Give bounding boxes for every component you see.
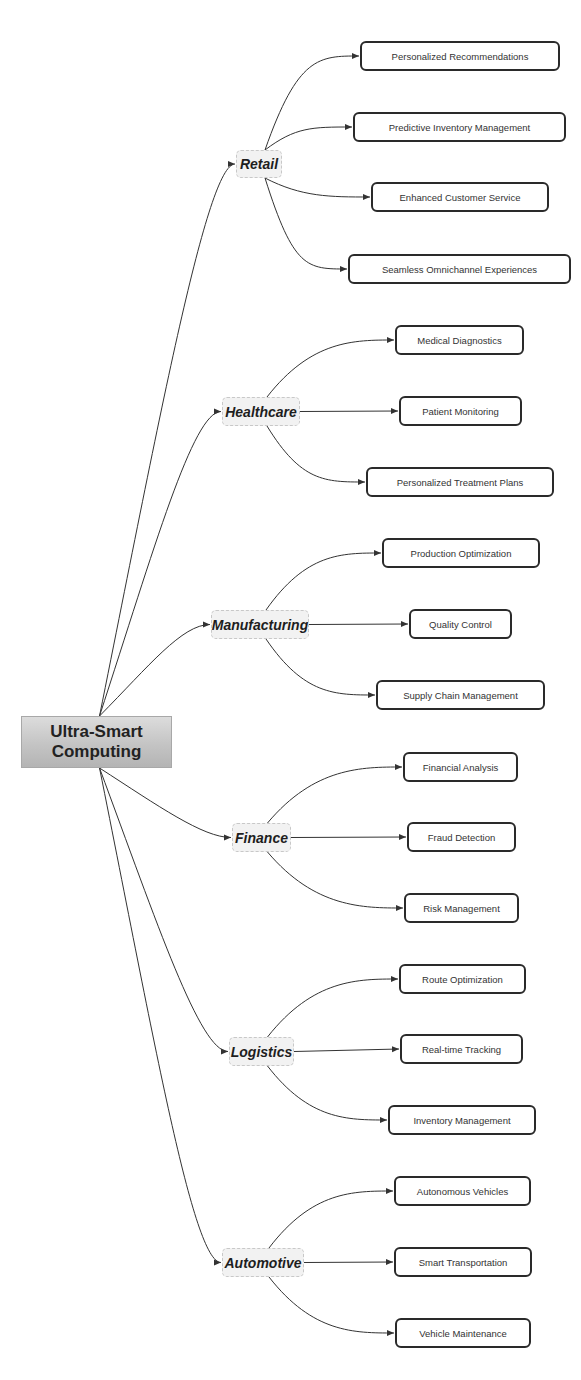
edge-root-to-automotive	[100, 768, 221, 1263]
edge-manufacturing-to-supply-chain-management	[266, 639, 375, 695]
leaf-node-predictive-inventory-management[interactable]: Predictive Inventory Management	[353, 112, 566, 142]
leaf-label: Personalized Recommendations	[392, 51, 529, 62]
leaf-label: Autonomous Vehicles	[417, 1186, 508, 1197]
edge-root-to-finance	[100, 768, 231, 838]
category-label: Manufacturing	[212, 617, 308, 633]
leaf-node-personalized-treatment-plans[interactable]: Personalized Treatment Plans	[366, 467, 554, 497]
edge-finance-to-risk-management	[268, 852, 404, 908]
leaf-label: Personalized Treatment Plans	[397, 477, 524, 488]
leaf-node-supply-chain-management[interactable]: Supply Chain Management	[376, 680, 545, 710]
leaf-label: Vehicle Maintenance	[419, 1328, 507, 1339]
category-node-manufacturing[interactable]: Manufacturing	[211, 610, 309, 639]
leaf-node-autonomous-vehicles[interactable]: Autonomous Vehicles	[394, 1176, 531, 1206]
category-node-retail[interactable]: Retail	[236, 150, 282, 178]
leaf-node-personalized-recommendations[interactable]: Personalized Recommendations	[360, 41, 560, 71]
leaf-node-risk-management[interactable]: Risk Management	[404, 893, 519, 923]
leaf-node-vehicle-maintenance[interactable]: Vehicle Maintenance	[395, 1318, 531, 1348]
category-label: Healthcare	[225, 404, 297, 420]
leaf-label: Seamless Omnichannel Experiences	[382, 264, 537, 275]
leaf-label: Quality Control	[429, 619, 492, 630]
edge-healthcare-to-personalized-treatment-plans	[267, 426, 365, 482]
leaf-node-route-optimization[interactable]: Route Optimization	[399, 964, 526, 994]
leaf-node-financial-analysis[interactable]: Financial Analysis	[403, 752, 518, 782]
leaf-label: Patient Monitoring	[422, 406, 499, 417]
edge-retail-to-enhanced-customer-service	[265, 178, 370, 197]
leaf-node-patient-monitoring[interactable]: Patient Monitoring	[399, 396, 522, 426]
leaf-label: Smart Transportation	[419, 1257, 508, 1268]
edge-manufacturing-to-quality-control	[309, 624, 408, 625]
root-node-ultra-smart-computing[interactable]: Ultra-Smart Computing	[21, 716, 172, 768]
edge-finance-to-fraud-detection	[291, 837, 406, 838]
leaf-node-smart-transportation[interactable]: Smart Transportation	[394, 1247, 532, 1277]
leaf-node-seamless-omnichannel-experiences[interactable]: Seamless Omnichannel Experiences	[348, 254, 571, 284]
edge-manufacturing-to-production-optimization	[266, 553, 381, 610]
category-node-automotive[interactable]: Automotive	[222, 1248, 304, 1277]
category-label: Logistics	[231, 1044, 292, 1060]
leaf-label: Predictive Inventory Management	[389, 122, 531, 133]
leaf-node-quality-control[interactable]: Quality Control	[409, 609, 512, 639]
category-node-healthcare[interactable]: Healthcare	[222, 397, 300, 426]
leaf-label: Supply Chain Management	[403, 690, 518, 701]
leaf-label: Production Optimization	[411, 548, 512, 559]
edge-logistics-to-real-time-tracking	[294, 1049, 399, 1052]
leaf-label: Financial Analysis	[423, 762, 499, 773]
leaf-node-real-time-tracking[interactable]: Real-time Tracking	[400, 1034, 523, 1064]
leaf-label: Risk Management	[423, 903, 500, 914]
leaf-label: Real-time Tracking	[422, 1044, 501, 1055]
leaf-node-enhanced-customer-service[interactable]: Enhanced Customer Service	[371, 182, 549, 212]
category-label: Finance	[235, 830, 288, 846]
category-node-finance[interactable]: Finance	[232, 823, 291, 852]
leaf-label: Medical Diagnostics	[417, 335, 501, 346]
edge-logistics-to-inventory-management	[268, 1066, 388, 1120]
root-label: Ultra-Smart Computing	[22, 722, 171, 762]
edge-automotive-to-smart-transportation	[304, 1262, 393, 1263]
category-label: Automotive	[225, 1255, 302, 1271]
leaf-node-production-optimization[interactable]: Production Optimization	[382, 538, 540, 568]
category-node-logistics[interactable]: Logistics	[229, 1037, 294, 1066]
edge-logistics-to-route-optimization	[268, 979, 399, 1037]
leaf-label: Route Optimization	[422, 974, 503, 985]
edge-finance-to-financial-analysis	[268, 767, 403, 823]
edge-retail-to-seamless-omnichannel-experiences	[265, 178, 347, 269]
category-label: Retail	[240, 156, 278, 172]
leaf-label: Fraud Detection	[428, 832, 496, 843]
leaf-node-fraud-detection[interactable]: Fraud Detection	[407, 822, 516, 852]
edge-root-to-manufacturing	[100, 625, 210, 717]
edge-automotive-to-vehicle-maintenance	[269, 1277, 394, 1333]
leaf-label: Enhanced Customer Service	[400, 192, 521, 203]
leaf-node-inventory-management[interactable]: Inventory Management	[388, 1105, 536, 1135]
edge-root-to-logistics	[100, 768, 228, 1052]
edge-retail-to-personalized-recommendations	[265, 56, 359, 150]
edge-healthcare-to-patient-monitoring	[300, 411, 398, 412]
edge-healthcare-to-medical-diagnostics	[267, 340, 394, 397]
edge-retail-to-predictive-inventory-management	[265, 127, 352, 150]
edge-root-to-healthcare	[100, 412, 221, 717]
edge-automotive-to-autonomous-vehicles	[269, 1191, 393, 1248]
leaf-node-medical-diagnostics[interactable]: Medical Diagnostics	[395, 325, 524, 355]
leaf-label: Inventory Management	[413, 1115, 510, 1126]
